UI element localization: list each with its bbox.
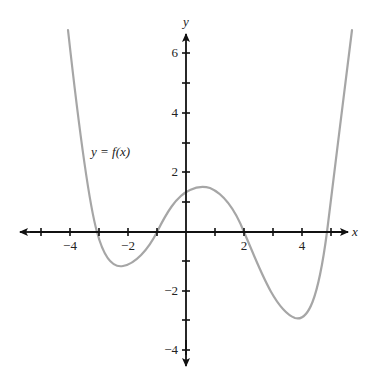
y-tick-label: 6	[172, 45, 179, 60]
x-tick-label: 2	[241, 238, 248, 253]
x-tick-label: 4	[299, 238, 306, 253]
x-axis-label: x	[351, 224, 358, 239]
y-tick-label: 2	[172, 164, 179, 179]
chart: −4 −2 2 4 x 6 4 2 −2 −4 y y = f(x)	[0, 0, 375, 385]
y-axis: 6 4 2 −2 −4 y	[164, 14, 190, 366]
x-axis: −4 −2 2 4 x	[20, 224, 358, 253]
y-tick-label: 4	[172, 105, 179, 120]
x-tick-label: −2	[121, 238, 135, 253]
x-tick-label: −4	[63, 238, 77, 253]
function-curve	[68, 30, 352, 318]
plot-area: −4 −2 2 4 x 6 4 2 −2 −4 y y = f(x)	[0, 0, 375, 385]
y-tick-label: −2	[164, 283, 178, 298]
y-tick-label: −4	[164, 342, 178, 357]
y-axis-label: y	[181, 14, 189, 29]
curve-label: y = f(x)	[89, 144, 130, 159]
